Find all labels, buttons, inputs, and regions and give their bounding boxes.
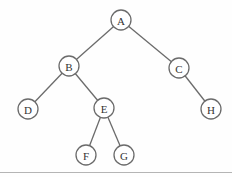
node-f: F: [76, 145, 96, 165]
node-e-label: E: [101, 103, 108, 115]
node-a: A: [111, 10, 131, 30]
bottom-divider: [0, 172, 232, 173]
node-a-label: A: [117, 15, 125, 27]
node-f-label: F: [83, 150, 89, 162]
node-g-label: G: [120, 150, 128, 162]
node-d: D: [18, 99, 38, 119]
edge-a-c: [121, 20, 179, 68]
node-c-label: C: [175, 63, 182, 75]
node-h-label: H: [207, 104, 215, 116]
tree-svg: A B C D E H F: [0, 0, 232, 177]
node-c: C: [169, 58, 189, 78]
node-b-label: B: [65, 61, 72, 73]
node-b: B: [59, 56, 79, 76]
node-e: E: [94, 98, 114, 118]
edges: [28, 20, 211, 155]
node-g: G: [114, 145, 134, 165]
node-d-label: D: [24, 104, 32, 116]
node-h: H: [201, 99, 221, 119]
tree-diagram: A B C D E H F: [0, 0, 232, 177]
